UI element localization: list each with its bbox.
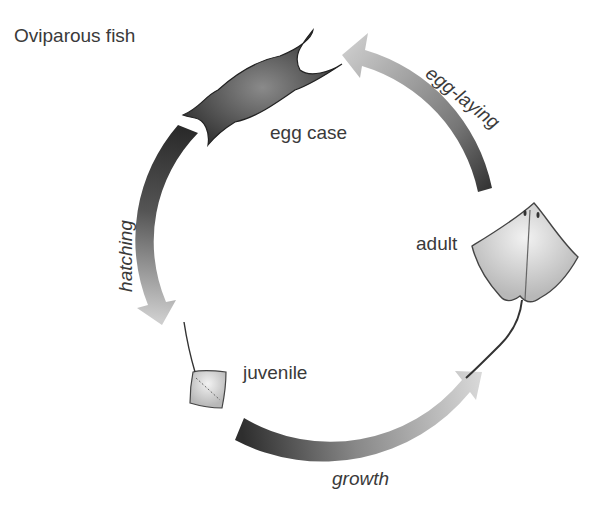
stage-label-egg-case: egg case (270, 122, 347, 144)
stage-label-adult: adult (416, 233, 457, 255)
transition-label-growth: growth (332, 468, 389, 490)
life-cycle-diagram (0, 0, 606, 506)
adult-ray-icon (466, 203, 578, 378)
juvenile-ray-icon (184, 322, 226, 408)
stage-label-juvenile: juvenile (243, 362, 307, 384)
transition-label-hatching: hatching (115, 216, 137, 296)
growth-arrow (235, 371, 482, 462)
diagram-title: Oviparous fish (14, 25, 135, 47)
hatching-arrow (135, 125, 198, 325)
